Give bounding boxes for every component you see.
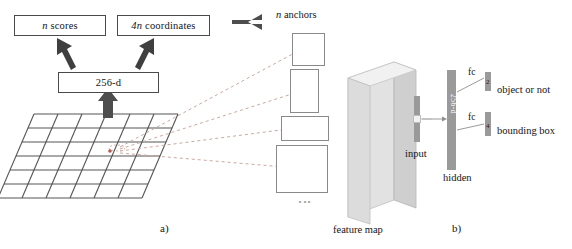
n-anchors-text: anchors [281,9,316,20]
output-bottom-dimension-label: 4 [486,122,490,130]
bounding-box-label: bounding box [497,125,555,136]
fc-label-top: fc [468,67,475,77]
feature-map-cuboid [348,62,416,224]
anchor-box-4[interactable] [276,145,328,193]
fc-label-bottom: fc [468,112,475,122]
intermediate-256d-label: 256-d [96,77,122,88]
hidden-dimension-label: 256-d [449,94,458,114]
hidden-layer-bar[interactable] [447,70,456,170]
arrow-256d-to-coords [135,38,154,70]
input-label: input [405,148,427,159]
intermediate-256d-box[interactable]: 256-d [58,72,159,93]
4n-coordinates-italic: 4n [131,20,142,31]
caption-a: a) [160,222,169,234]
anchor-box-1[interactable] [292,33,325,66]
4n-coordinates-text: coordinates [142,20,195,31]
object-or-not-label: object or not [497,84,550,95]
rpn-figure: n scores 4n coordinates 256-d n anchors … [0,0,572,249]
arrow-256d-to-scores [57,38,76,70]
input-node-marker [413,115,421,123]
4n-coordinates-box[interactable]: 4n coordinates [117,15,210,36]
hidden-label: hidden [443,172,472,183]
n-anchors-label: n anchors [276,9,317,20]
arrow-anchors-to-window [232,14,262,30]
anchor-dashed-connectors [120,50,300,168]
n-scores-text: scores [48,20,78,31]
anchor-ellipsis-icon: ⋮ [297,196,312,209]
anchor-box-2[interactable] [290,69,319,113]
n-scores-box[interactable]: n scores [14,15,106,36]
anchor-box-3[interactable] [281,116,329,141]
output-top-dimension-label: 2 [486,78,490,86]
caption-b: b) [452,222,461,234]
feature-map-label: feature map [333,224,383,235]
